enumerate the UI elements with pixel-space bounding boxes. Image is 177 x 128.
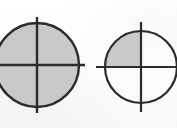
fraction-circle-right — [91, 17, 177, 117]
fraction-circle-left — [0, 12, 90, 118]
quadrant-top-left-shaded — [0, 23, 37, 65]
diagram-canvas — [0, 0, 177, 128]
quadrant-bottom-left-shaded — [0, 65, 37, 107]
